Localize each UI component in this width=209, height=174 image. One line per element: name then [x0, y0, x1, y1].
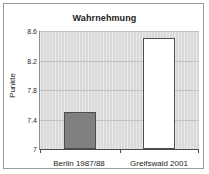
- chart-frame: Wahrnehmung Punkte 77.47.88.28.6 Berlin …: [3, 3, 204, 169]
- y-axis-tick-label: 8.2: [27, 57, 37, 64]
- chart-title: Wahrnehmung: [4, 13, 205, 23]
- category-axis-tick: [40, 149, 41, 153]
- y-axis-tick-label: 7: [33, 146, 37, 153]
- bar-berlin: [64, 112, 96, 149]
- bar-greifswald: [143, 38, 175, 149]
- y-axis-tick-label: 7.4: [27, 116, 37, 123]
- y-axis-title: Punkte: [8, 56, 17, 116]
- category-axis-tick: [198, 149, 199, 153]
- y-axis-tick-label: 7.8: [27, 87, 37, 94]
- y-axis-tick-label: 8.6: [27, 28, 37, 35]
- gridline: [40, 31, 199, 32]
- category-label-berlin: Berlin 1987/88: [39, 159, 119, 168]
- category-label-greifswald: Greifswald 2001: [119, 159, 199, 168]
- plot-area: 77.47.88.28.6: [39, 31, 199, 150]
- category-axis-tick: [120, 149, 121, 153]
